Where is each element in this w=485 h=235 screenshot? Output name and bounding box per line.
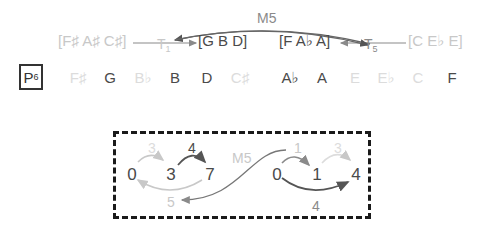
note: G: [104, 69, 116, 86]
note: B: [170, 69, 180, 86]
note: C♯: [231, 69, 249, 86]
note: A: [317, 69, 327, 86]
note: D: [202, 69, 213, 86]
note: E♭: [377, 69, 394, 87]
right-node-0: 0: [272, 165, 281, 185]
note: F♯: [70, 69, 87, 86]
t1-label: T1: [157, 36, 171, 54]
right-edge-4: 4: [312, 198, 320, 214]
p-letter: P: [23, 69, 33, 86]
chord-faba: [F A♭ A]: [279, 32, 330, 50]
left-edge-3: 3: [148, 140, 156, 156]
transform-label-p6: P6: [19, 64, 43, 90]
right-node-1: 1: [312, 165, 321, 185]
left-node-3: 3: [166, 165, 175, 185]
note: E: [350, 69, 360, 86]
left-node-0: 0: [127, 165, 136, 185]
p-subscript: 6: [34, 72, 39, 82]
note: C: [413, 69, 424, 86]
m5-label-top: M5: [257, 10, 276, 26]
chord-gbd: [G B D]: [198, 32, 247, 49]
left-node-7: 7: [205, 165, 214, 185]
note: A♭: [281, 69, 298, 87]
right-edge-1: 1: [294, 140, 302, 156]
chord-cebe: [C E♭ E]: [408, 32, 463, 50]
left-edge-4: 4: [188, 140, 196, 156]
chord-fsharp: [F♯ A♯ C♯]: [58, 32, 126, 49]
left-edge-5: 5: [167, 194, 175, 210]
right-edge-3: 3: [334, 140, 342, 156]
note: B♭: [134, 69, 151, 87]
right-node-4: 4: [351, 165, 360, 185]
t5-label: T5: [364, 36, 378, 54]
m5-label-box: M5: [232, 150, 251, 166]
note: F: [447, 69, 456, 86]
